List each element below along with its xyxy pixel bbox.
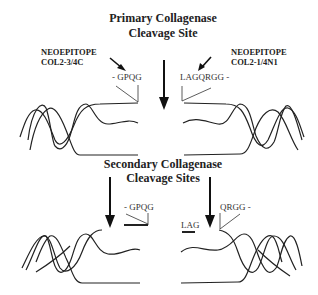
secondary-title-line2: Cleavage Sites: [126, 171, 200, 185]
top-left-bracket: [116, 85, 138, 102]
bottom-right-collagen-helix: [181, 230, 302, 283]
top-right-sequence: LAGQRGG -: [180, 72, 229, 82]
primary-title-line1: Primary Collagenase: [109, 11, 217, 25]
bottom-lag-fragment: LAG: [181, 220, 200, 230]
left-neoepitope-code: COL2-3/4C: [41, 57, 84, 67]
bottom-left-bracket: [124, 213, 148, 225]
left-neoepitope-label: NEOEPITOPE: [41, 47, 97, 57]
primary-cleavage-arrow-icon: [159, 60, 169, 110]
top-right-collagen-helix: [183, 103, 304, 155]
secondary-right-arrow-icon: [205, 177, 215, 228]
top-right-bracket: [182, 86, 211, 101]
bottom-left-collagen-helix: [22, 230, 140, 283]
right-neoepitope-label: NEOEPITOPE: [231, 47, 287, 57]
top-left-collagen-helix: [20, 103, 138, 155]
bottom-right-bracket: [220, 213, 240, 229]
collagenase-cleavage-diagram: Primary Collagenase Cleavage Site NEOEPI…: [0, 0, 318, 295]
left-pointer-arrow-icon: [110, 58, 126, 71]
secondary-left-arrow-icon: [105, 177, 115, 228]
top-left-sequence: - GPQG: [112, 72, 142, 82]
primary-title-line2: Cleavage Site: [129, 26, 199, 40]
bottom-right-sequence: QRGG -: [220, 202, 251, 212]
right-neoepitope-code: COL2-1/4N1: [231, 57, 278, 67]
secondary-title-line1: Secondary Collagenase: [104, 157, 223, 171]
bottom-left-sequence: - GPQG: [124, 202, 154, 212]
right-pointer-arrow-icon: [198, 57, 211, 71]
